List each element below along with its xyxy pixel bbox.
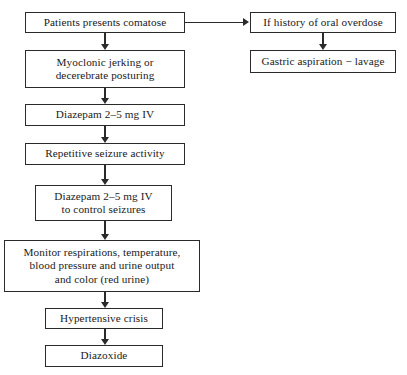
edge-comatose-to-myoclonic-line	[104, 33, 106, 44]
node-label: Diazepam 2–5 mg IV to control seizures	[54, 190, 152, 216]
edge-repetitive-seizure-to-diazepam-control-line	[104, 165, 106, 179]
edge-diazepam-to-repetitive-seizure-line	[104, 126, 106, 137]
node-diazepam-initial-dose[interactable]: Diazepam 2–5 mg IV	[25, 104, 185, 126]
edge-monitor-to-hypertensive-crisis-line	[104, 292, 106, 302]
node-if-history-of-oral-overdose[interactable]: If history of oral overdose	[250, 12, 396, 33]
node-patients-presents-comatose[interactable]: Patients presents comatose	[25, 12, 185, 33]
node-label: Hypertensive crisis	[60, 312, 148, 325]
edge-monitor-to-hypertensive-crisis-arrowhead	[101, 302, 109, 308]
node-diazoxide[interactable]: Diazoxide	[45, 345, 163, 367]
edge-diazepam-control-to-monitor-arrowhead	[101, 234, 109, 240]
edge-comatose-to-myoclonic-arrowhead	[101, 44, 109, 50]
edge-myoclonic-to-diazepam-line	[104, 88, 106, 98]
node-label: Myoclonic jerking or decerebrate posturi…	[56, 56, 155, 82]
node-diazepam-control-seizures[interactable]: Diazepam 2–5 mg IV to control seizures	[35, 185, 172, 221]
node-label: Patients presents comatose	[44, 16, 167, 29]
node-label: Monitor respirations, temperature, blood…	[24, 246, 181, 286]
flowchart-canvas: Patients presents comatose If history of…	[0, 0, 407, 375]
edge-oral-overdose-to-gastric-arrowhead	[319, 44, 327, 50]
node-label: If history of oral overdose	[263, 16, 383, 29]
edge-diazepam-to-repetitive-seizure-arrowhead	[101, 137, 109, 143]
edge-hypertensive-crisis-to-diazoxide-line	[104, 329, 106, 339]
node-label: Repetitive seizure activity	[45, 147, 165, 160]
node-label: Diazepam 2–5 mg IV	[56, 108, 154, 121]
edge-comatose-to-oral-overdose-arrowhead	[243, 18, 249, 26]
edge-repetitive-seizure-to-diazepam-control-arrowhead	[101, 179, 109, 185]
edge-hypertensive-crisis-to-diazoxide-arrowhead	[101, 339, 109, 345]
edge-diazepam-control-to-monitor-line	[104, 221, 106, 234]
node-hypertensive-crisis[interactable]: Hypertensive crisis	[45, 308, 163, 329]
node-gastric-aspiration-lavage[interactable]: Gastric aspiration − lavage	[250, 50, 396, 73]
edge-myoclonic-to-diazepam-arrowhead	[101, 98, 109, 104]
node-monitor-vitals[interactable]: Monitor respirations, temperature, blood…	[4, 240, 200, 292]
node-label: Diazoxide	[81, 349, 128, 362]
node-repetitive-seizure-activity[interactable]: Repetitive seizure activity	[25, 143, 185, 165]
node-label: Gastric aspiration − lavage	[261, 55, 384, 68]
edge-comatose-to-oral-overdose-line	[185, 22, 243, 24]
node-myoclonic-jerking-decerebrate-posturing[interactable]: Myoclonic jerking or decerebrate posturi…	[25, 50, 185, 88]
edge-oral-overdose-to-gastric-line	[322, 33, 324, 44]
